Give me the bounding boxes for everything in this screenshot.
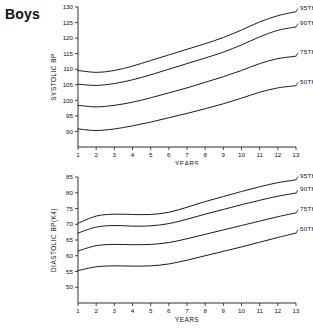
percentile-leader-95th (296, 177, 298, 180)
x-tick-label: 11 (256, 307, 263, 314)
x-tick-label: 13 (293, 151, 300, 158)
y-axis-title: SYSTOLIC BP (50, 53, 57, 100)
y-tick-label: 130 (63, 3, 74, 10)
percentile-label-50th: 50TH (300, 225, 313, 232)
percentile-leader-90th (296, 190, 298, 193)
x-tick-label: 2 (94, 151, 98, 158)
x-tick-label: 6 (167, 307, 171, 314)
percentile-leader-50th (296, 230, 298, 233)
y-tick-label: 100 (63, 97, 74, 104)
x-tick-label: 7 (185, 307, 189, 314)
y-tick-label: 65 (66, 236, 73, 243)
x-tick-label: 8 (203, 307, 207, 314)
percentile-leader-90th (296, 24, 298, 27)
y-axis-title: DIASTOLIC BP(K4) (50, 208, 58, 272)
x-tick-label: 8 (203, 151, 207, 158)
x-tick-label: 6 (167, 151, 171, 158)
y-tick-label: 85 (66, 173, 73, 180)
y-tick-label: 105 (63, 81, 74, 88)
x-tick-label: 9 (222, 151, 226, 158)
x-tick-label: 12 (274, 307, 281, 314)
systolic-bp-chart: 9095100105110115120125130123456789101112… (0, 0, 313, 165)
y-tick-label: 75 (66, 205, 73, 212)
y-tick-label: 55 (66, 268, 73, 275)
diastolic-chart-canvas: 505560657075808512345678910111213YEARSDI… (0, 165, 313, 329)
x-tick-label: 2 (94, 307, 98, 314)
percentile-leader-75th (296, 53, 298, 56)
x-tick-label: 1 (76, 151, 80, 158)
y-tick-label: 115 (63, 50, 73, 57)
x-tick-label: 13 (293, 307, 300, 314)
x-tick-label: 3 (113, 307, 117, 314)
y-tick-label: 120 (63, 34, 74, 41)
percentile-label-75th: 75TH (300, 205, 313, 212)
percentile-label-90th: 90TH (300, 19, 313, 26)
x-axis-title: YEARS (175, 316, 199, 323)
x-tick-label: 7 (185, 151, 189, 158)
x-tick-label: 1 (76, 307, 80, 314)
y-tick-label: 90 (66, 128, 73, 135)
percentile-label-95th: 95TH (300, 4, 313, 11)
y-tick-label: 50 (66, 283, 73, 290)
x-tick-label: 5 (149, 307, 153, 314)
x-tick-label: 10 (238, 151, 245, 158)
percentile-leader-95th (296, 8, 298, 11)
x-tick-label: 4 (131, 151, 135, 158)
diastolic-bp-chart: 505560657075808512345678910111213YEARSDI… (0, 165, 313, 329)
percentile-curve-90th (78, 27, 296, 85)
x-tick-label: 9 (222, 307, 226, 314)
percentile-label-75th: 75TH (300, 48, 313, 55)
y-tick-label: 60 (66, 252, 73, 259)
x-tick-label: 5 (149, 151, 153, 158)
y-tick-label: 80 (66, 189, 73, 196)
y-tick-label: 95 (66, 112, 73, 119)
y-tick-label: 110 (63, 65, 73, 72)
x-tick-label: 12 (274, 151, 281, 158)
y-tick-label: 125 (63, 19, 74, 26)
x-tick-label: 11 (256, 151, 263, 158)
x-tick-label: 10 (238, 307, 245, 314)
percentile-label-90th: 90TH (300, 185, 313, 192)
percentile-curve-90th (78, 193, 296, 233)
percentile-label-95th: 95TH (300, 172, 313, 179)
percentile-curve-50th (78, 86, 296, 131)
percentile-label-50th: 50TH (300, 78, 313, 85)
y-tick-label: 70 (66, 220, 73, 227)
x-tick-label: 4 (131, 307, 135, 314)
percentile-curve-95th (78, 180, 296, 223)
percentile-curve-75th (78, 213, 296, 251)
percentile-leader-75th (296, 210, 298, 213)
percentile-leader-50th (296, 82, 298, 85)
x-tick-label: 3 (113, 151, 117, 158)
systolic-chart-canvas: 9095100105110115120125130123456789101112… (0, 0, 313, 165)
